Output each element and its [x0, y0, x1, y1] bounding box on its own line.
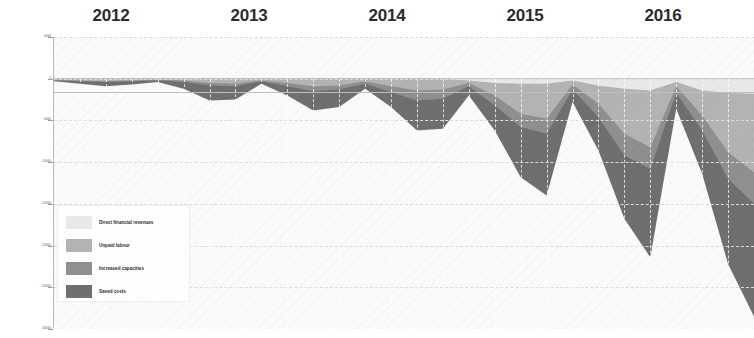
- legend-label-2: Increased capacities: [99, 266, 144, 272]
- chart-legend: Direct financial revenues Unpaid labour …: [57, 205, 190, 302]
- vertical-gridline: [598, 79, 599, 329]
- y-tick-label: -200000: [41, 244, 51, 247]
- legend-item-2: Increased capacities: [66, 262, 144, 275]
- legend-label-0: Direct financial revenues: [99, 220, 153, 226]
- legend-item-1: Unpaid labour: [66, 239, 130, 252]
- y-tick-label: 50000: [44, 35, 51, 38]
- y-tick-label: -50000: [43, 118, 51, 121]
- year-label-2012: 2012: [66, 6, 156, 26]
- y-tick-label: -300000: [41, 327, 51, 330]
- legend-label-3: Saved costs: [99, 289, 126, 295]
- vertical-gridline: [287, 79, 288, 329]
- legend-label-1: Unpaid labour: [99, 243, 130, 249]
- vertical-gridline: [365, 79, 366, 329]
- gridline: [54, 79, 754, 80]
- gridline: [54, 162, 754, 163]
- vertical-gridline: [391, 79, 392, 329]
- vertical-gridline: [313, 79, 314, 329]
- legend-swatch-saved-costs: [66, 285, 92, 298]
- vertical-gridline: [469, 79, 470, 329]
- chart-canvas: 2012 2013 2014 2015 2016 500000-50000-10…: [0, 0, 754, 338]
- vertical-gridline: [702, 79, 703, 329]
- vertical-gridline: [573, 79, 574, 329]
- gridline: [54, 120, 754, 121]
- vertical-gridline: [339, 79, 340, 329]
- legend-swatch-unpaid-labour: [66, 239, 92, 252]
- vertical-gridline: [443, 79, 444, 329]
- vertical-gridline: [261, 79, 262, 329]
- vertical-gridline: [624, 79, 625, 329]
- y-tick-label: -100000: [41, 160, 51, 163]
- legend-item-3: Saved costs: [66, 285, 126, 298]
- y-tick-label: -150000: [41, 202, 51, 205]
- year-label-2015: 2015: [480, 6, 570, 26]
- year-label-2016: 2016: [618, 6, 708, 26]
- y-tick-label: 0: [50, 77, 51, 80]
- zero-baseline: [54, 92, 754, 93]
- y-tick-label: -250000: [41, 285, 51, 288]
- year-label-2013: 2013: [204, 6, 294, 26]
- gridline: [54, 37, 754, 38]
- vertical-gridline: [417, 79, 418, 329]
- vertical-gridline: [728, 79, 729, 329]
- vertical-gridline: [495, 79, 496, 329]
- vertical-gridline: [235, 79, 236, 329]
- year-label-row: 2012 2013 2014 2015 2016: [0, 0, 754, 34]
- legend-swatch-direct-financial-revenues: [66, 216, 92, 229]
- legend-swatch-increased-capacities: [66, 262, 92, 275]
- vertical-gridline: [210, 79, 211, 329]
- vertical-gridline: [547, 79, 548, 329]
- year-label-2014: 2014: [342, 6, 432, 26]
- legend-item-0: Direct financial revenues: [66, 216, 153, 229]
- vertical-gridline: [650, 79, 651, 329]
- plot-area: Direct financial revenues Unpaid labour …: [54, 37, 754, 329]
- vertical-gridline: [676, 79, 677, 329]
- vertical-gridline: [521, 79, 522, 329]
